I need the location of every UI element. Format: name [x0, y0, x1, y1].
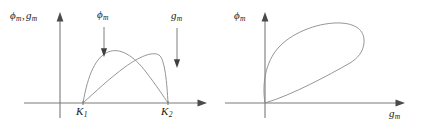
right-x-axis-arrowhead — [396, 100, 406, 107]
annotation-g-m: gm — [171, 10, 182, 22]
annotation-g-m-base: g — [171, 9, 177, 21]
right-y-axis-label-sub: m — [240, 14, 246, 23]
left-y-axis-label-separator: , — [22, 9, 25, 21]
right-x-axis-label-sub: m — [395, 112, 401, 121]
g-m-pointer-arrowhead — [174, 59, 180, 68]
x-tick-label-k2: K2 — [161, 106, 172, 118]
right-y-axis-label: ϕm — [234, 10, 246, 22]
figure-root: ϕm,gm ϕm gm K1 K2 ϕm gm — [0, 0, 434, 128]
left-y-axis-label-g: g — [26, 9, 32, 21]
annotation-phi-m-sub: m — [103, 13, 109, 22]
annotation-phi-m: ϕm — [97, 9, 109, 21]
phi-versus-g-loop-plot — [217, 0, 434, 128]
right-x-axis-label: gm — [389, 108, 400, 120]
annotation-phi-m-base: ϕ — [97, 8, 103, 20]
curve-hysteresis-loop — [264, 23, 364, 103]
left-x-axis-arrowhead — [198, 100, 208, 107]
curve-g-m — [83, 54, 168, 103]
left-y-axis-label: ϕm,gm — [10, 10, 37, 22]
x-tick-label-k2-base: K — [161, 105, 168, 117]
right-y-axis-arrowhead — [262, 12, 269, 22]
annotation-g-m-sub: m — [177, 14, 183, 23]
left-y-axis-label-phi: ϕ — [10, 9, 16, 21]
x-tick-label-k1-base: K — [76, 105, 83, 117]
curve-phi-m — [83, 51, 168, 103]
x-tick-label-k2-sub: 2 — [169, 110, 173, 119]
left-y-axis-arrowhead — [57, 12, 64, 22]
right-x-axis-label-base: g — [389, 107, 395, 119]
right-y-axis-label-base: ϕ — [234, 9, 240, 21]
x-tick-label-k1: K1 — [76, 106, 87, 118]
x-tick-label-k1-sub: 1 — [84, 110, 88, 119]
left-y-axis-label-phi-sub: m — [16, 14, 22, 23]
left-y-axis-label-g-sub: m — [32, 14, 38, 23]
